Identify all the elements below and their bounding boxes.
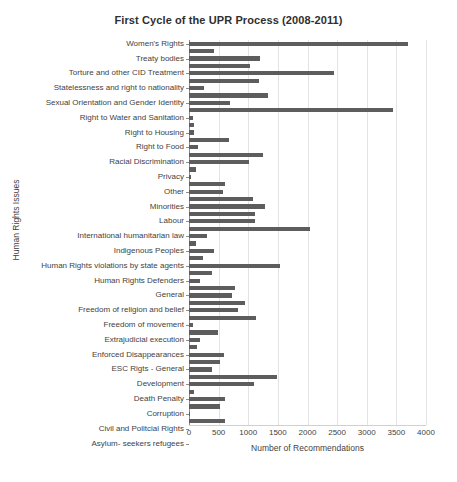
bar <box>189 382 254 386</box>
bar <box>189 323 193 327</box>
bar <box>189 153 263 157</box>
y-axis-tick-label: Right to Food <box>0 143 184 151</box>
bar <box>189 167 196 171</box>
bar <box>189 227 310 231</box>
y-axis-tick-label: Freedom of religion and belief <box>0 306 184 314</box>
y-axis-tick-label: Treaty bodies <box>0 55 184 63</box>
gridline <box>219 40 220 425</box>
y-axis-tick-mark <box>186 44 189 45</box>
y-axis-tick-mark <box>186 325 189 326</box>
y-axis-tick-label: Corruption <box>0 410 184 418</box>
bar <box>189 375 277 379</box>
bar <box>189 212 255 216</box>
y-axis-tick-mark <box>186 310 189 311</box>
y-axis-tick-label: Right to Water and Sanitation <box>0 114 184 122</box>
x-axis-tick-label: 4000 <box>406 428 446 438</box>
chart-figure: First Cycle of the UPR Process (2008-201… <box>0 0 457 482</box>
y-axis-title: Human Rights Issues <box>11 165 21 275</box>
y-axis-tick-label: Human Rights violations by state agents <box>0 262 184 270</box>
bar <box>189 301 245 305</box>
y-axis-tick-mark <box>186 177 189 178</box>
bar <box>189 330 218 334</box>
bar <box>189 116 193 120</box>
y-axis-tick-label: Right to Housing <box>0 129 184 137</box>
bar <box>189 264 280 268</box>
y-axis-tick-mark <box>186 103 189 104</box>
gridline <box>248 40 249 425</box>
y-axis-tick-mark <box>186 340 189 341</box>
x-axis-line <box>189 425 426 426</box>
bar <box>189 175 191 179</box>
x-axis-title: Number of Recommendations <box>189 443 426 453</box>
gridline <box>426 40 427 425</box>
y-axis-tick-label: Asylum- seekers refugees <box>0 440 184 448</box>
y-axis-tick-mark <box>186 266 189 267</box>
y-axis-tick-label: Sexual Orientation and Gender Identity <box>0 99 184 107</box>
y-axis-tick-label: Death Penalty <box>0 395 184 403</box>
y-axis-tick-label: Torture and other CID Treatment <box>0 69 184 77</box>
bar <box>189 256 203 260</box>
y-axis-tick-label: Development <box>0 380 184 388</box>
y-axis-tick-label: Racial Discrimination <box>0 158 184 166</box>
y-axis-tick-label: International humanitarian law <box>0 232 184 240</box>
bar <box>189 64 250 68</box>
y-axis-tick-labels: Women's RightsTreaty bodiesTorture and o… <box>0 40 186 425</box>
bar <box>189 93 268 97</box>
y-axis-tick-mark <box>186 207 189 208</box>
bar <box>189 390 194 394</box>
y-axis-tick-mark <box>186 118 189 119</box>
bar <box>189 367 212 371</box>
bar <box>189 108 393 112</box>
bar <box>189 345 197 349</box>
bar <box>189 42 408 46</box>
bar <box>189 249 214 253</box>
y-axis-tick-label: Statelessness and right to nationality <box>0 84 184 92</box>
y-axis-tick-label: Civil and Politcial Rights <box>0 425 184 433</box>
y-axis-tick-label: General <box>0 291 184 299</box>
y-axis-tick-label: Privacy <box>0 173 184 181</box>
gridline <box>308 40 309 425</box>
x-axis-tick-labels: 05001000150020002500300035004000 <box>189 428 426 442</box>
y-axis-tick-mark <box>186 147 189 148</box>
y-axis-tick-mark <box>186 133 189 134</box>
chart-title: First Cycle of the UPR Process (2008-201… <box>0 14 457 26</box>
bar <box>189 293 232 297</box>
gridline <box>396 40 397 425</box>
y-axis-tick-mark <box>186 59 189 60</box>
y-axis-tick-label: Extrajudicial execution <box>0 336 184 344</box>
bar <box>189 123 194 127</box>
bar <box>189 145 198 149</box>
y-axis-tick-mark <box>186 192 189 193</box>
bar <box>189 204 265 208</box>
bar <box>189 412 190 416</box>
bar <box>189 79 259 83</box>
plot-area <box>189 40 426 425</box>
bar <box>189 316 256 320</box>
y-axis-tick-label: Indigenous Peoples <box>0 247 184 255</box>
bar <box>189 360 220 364</box>
gridline <box>367 40 368 425</box>
bar <box>189 86 204 90</box>
bar <box>189 182 225 186</box>
y-axis-tick-mark <box>186 236 189 237</box>
y-axis-tick-label: Human Rights Defenders <box>0 277 184 285</box>
gridline <box>337 40 338 425</box>
y-axis-tick-mark <box>186 162 189 163</box>
y-axis-tick-mark <box>186 399 189 400</box>
bar <box>189 308 238 312</box>
bar <box>189 197 253 201</box>
y-axis-tick-label: Enforced Disappearances <box>0 351 184 359</box>
y-axis-tick-mark <box>186 251 189 252</box>
y-axis-tick-label: Women's Rights <box>0 40 184 48</box>
y-axis-tick-mark <box>186 281 189 282</box>
y-axis-tick-label: Freedom of movement <box>0 321 184 329</box>
y-axis-tick-mark <box>186 369 189 370</box>
gridline <box>278 40 279 425</box>
bar <box>189 101 230 105</box>
bar <box>189 338 200 342</box>
bar <box>189 160 249 164</box>
y-axis-tick-mark <box>186 355 189 356</box>
bar <box>189 353 224 357</box>
y-axis-tick-mark <box>186 73 189 74</box>
bar <box>189 271 212 275</box>
